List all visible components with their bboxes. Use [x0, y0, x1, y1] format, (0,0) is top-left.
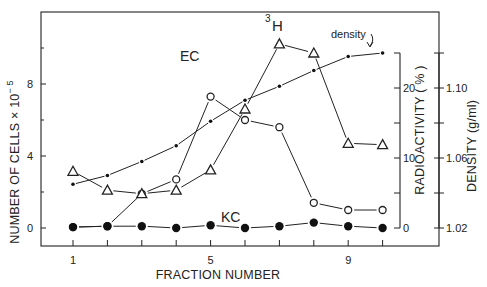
- series-segment: [79, 226, 101, 227]
- open-circle-marker-icon: [173, 176, 180, 183]
- series-segment: [285, 45, 308, 51]
- kc-label: KC: [221, 209, 240, 225]
- series-3h: [68, 39, 388, 198]
- left-axis-label-exponent: − 5: [5, 80, 15, 93]
- ec-label: EC: [180, 48, 199, 64]
- series-segment: [251, 121, 274, 126]
- filled-circle-marker-icon: [241, 224, 249, 232]
- x-axis-label: FRACTION NUMBER: [156, 268, 281, 282]
- series-segment: [316, 59, 346, 138]
- filled-circle-marker-icon: [69, 223, 77, 231]
- series-segment: [248, 49, 277, 103]
- dot-marker-icon: [381, 51, 385, 55]
- h3-label-superscript: 3: [265, 13, 271, 24]
- x-tick-label: 1: [70, 254, 76, 266]
- series-segment: [147, 182, 170, 192]
- x-tick-label: 9: [345, 254, 351, 266]
- series-segment: [78, 174, 102, 187]
- triangle-marker-icon: [343, 138, 353, 147]
- open-circle-marker-icon: [242, 117, 249, 124]
- x-tick-label: 5: [208, 254, 214, 266]
- svg-text:RADIOACTIVITY ( % ): RADIOACTIVITY ( % ): [413, 65, 427, 194]
- series-segment: [145, 147, 174, 160]
- dot-marker-icon: [71, 182, 75, 186]
- filled-circle-marker-icon: [138, 222, 146, 230]
- density-tick-label: 1.10: [446, 82, 467, 94]
- svg-text:DENSITY (g/ml): DENSITY (g/ml): [465, 100, 479, 192]
- series-segment: [217, 226, 239, 228]
- series-segment: [182, 226, 204, 228]
- triangle-marker-icon: [378, 140, 388, 149]
- series-segment: [320, 223, 342, 225]
- filled-circle-marker-icon: [344, 222, 352, 230]
- series-segment: [282, 72, 311, 85]
- open-circle-marker-icon: [379, 207, 386, 214]
- triangle-marker-icon: [309, 48, 319, 57]
- left-tick-label: 4: [27, 150, 33, 162]
- filled-circle-marker-icon: [103, 222, 111, 230]
- series-segment: [113, 191, 135, 193]
- x-axis-ticks: 159: [70, 240, 383, 266]
- triangle-marker-icon: [240, 104, 250, 113]
- series-segment: [216, 100, 240, 117]
- filled-circle-marker-icon: [206, 221, 214, 229]
- filled-circle-marker-icon: [275, 222, 283, 230]
- series-segment: [354, 227, 376, 228]
- series-segment: [112, 198, 138, 222]
- triangle-marker-icon: [171, 185, 181, 194]
- dot-marker-icon: [140, 160, 144, 164]
- series-density: [71, 51, 384, 186]
- open-circle-marker-icon: [345, 207, 352, 214]
- series-segment: [282, 133, 311, 198]
- triangle-marker-icon: [102, 185, 112, 194]
- open-circle-marker-icon: [310, 199, 317, 206]
- series-segment: [285, 223, 307, 225]
- triangle-marker-icon: [68, 166, 78, 175]
- density-arrow-icon: [367, 34, 373, 47]
- triangle-marker-icon: [274, 39, 284, 48]
- dot-marker-icon: [106, 174, 110, 178]
- series-segment: [179, 123, 209, 144]
- dot-marker-icon: [346, 55, 350, 59]
- open-circle-marker-icon: [207, 93, 214, 100]
- series-segment: [251, 227, 273, 228]
- svg-text:NUMBER OF CELLS × 10− 5: NUMBER OF CELLS × 10− 5: [5, 80, 22, 244]
- series-segment: [179, 102, 209, 174]
- left-axis-label: NUMBER OF CELLS × 10− 5: [5, 80, 22, 244]
- series-segment: [148, 227, 170, 228]
- series-segment: [351, 53, 379, 56]
- left-tick-label: 8: [27, 78, 33, 90]
- dot-marker-icon: [243, 98, 247, 102]
- series-segment: [181, 173, 205, 187]
- series-segment: [248, 87, 277, 99]
- density-label: density: [331, 28, 366, 40]
- dot-marker-icon: [209, 119, 213, 123]
- dot-marker-icon: [278, 84, 282, 88]
- left-tick-label: 0: [27, 222, 33, 234]
- chart: 159 048 01020 1.021.061.10 FRACTION NUMB…: [0, 0, 487, 287]
- triangle-marker-icon: [206, 165, 216, 174]
- dot-marker-icon: [174, 144, 178, 148]
- density-axis-label: DENSITY (g/ml): [465, 100, 479, 192]
- dot-marker-icon: [312, 69, 316, 73]
- density-axis: 1.021.061.10: [434, 53, 467, 234]
- density-tick-label: 1.02: [446, 222, 467, 234]
- series-layer: [68, 39, 388, 232]
- left-axis-label-text: NUMBER OF CELLS × 10: [8, 94, 22, 244]
- filled-circle-marker-icon: [310, 218, 318, 226]
- series-segment: [110, 163, 139, 175]
- series-segment: [148, 191, 170, 193]
- left-axis-ticks: 048: [27, 48, 46, 234]
- open-circle-marker-icon: [276, 124, 283, 131]
- series-segment: [354, 144, 376, 145]
- radioactivity-tick-label: 0: [403, 222, 409, 234]
- filled-circle-marker-icon: [172, 224, 180, 232]
- series-segment: [317, 58, 346, 70]
- series-segment: [213, 102, 242, 120]
- series-segment: [214, 114, 242, 164]
- series-segment: [76, 176, 105, 183]
- radioactivity-axis-label: RADIOACTIVITY ( % ): [413, 65, 427, 194]
- h3-label: H: [272, 17, 283, 34]
- filled-circle-marker-icon: [378, 224, 386, 232]
- series-segment: [320, 204, 343, 209]
